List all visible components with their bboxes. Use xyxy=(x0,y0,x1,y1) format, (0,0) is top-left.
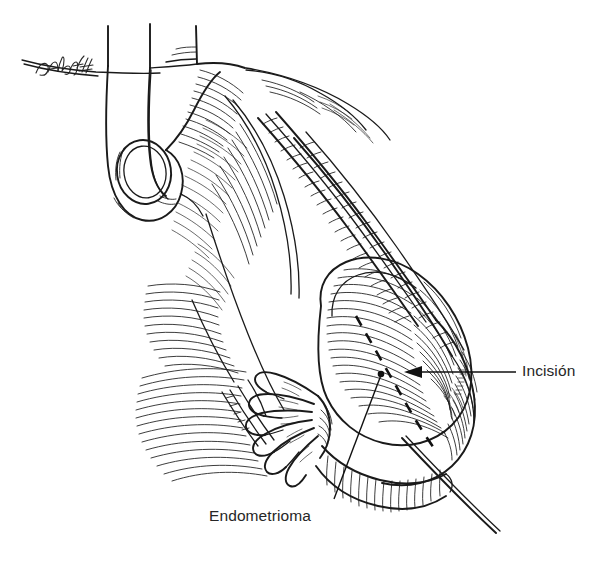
broad-ligament-upper-hatching xyxy=(172,70,247,258)
medical-illustration-figure: Incisión Endometrioma xyxy=(0,0,613,561)
uterine-fundus xyxy=(108,24,245,68)
ovarian-endometrioma xyxy=(318,258,471,446)
tube-trunk xyxy=(166,72,220,216)
upper-right-contour xyxy=(246,68,390,143)
lower-tube-loop xyxy=(316,446,452,512)
artist-signature xyxy=(22,56,160,76)
fimbriae xyxy=(246,372,318,486)
broad-ligament-fold xyxy=(212,96,299,298)
label-incision: Incisión xyxy=(522,363,575,379)
endometrioma-leader-dot xyxy=(378,371,385,378)
upper-right-tissue-flap xyxy=(246,70,366,130)
label-endometrioma: Endometrioma xyxy=(209,508,311,524)
mesosalpinx-cord xyxy=(258,112,436,326)
anatomy-drawing-canvas xyxy=(0,0,613,561)
broad-ligament-lower-hatching xyxy=(136,214,284,481)
